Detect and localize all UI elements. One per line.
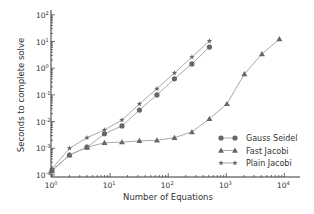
- star-icon: [232, 160, 237, 165]
- y-tick-label: 10-3: [36, 143, 51, 153]
- circle-marker: [207, 44, 212, 49]
- circle-icon: [232, 135, 237, 140]
- y-tick-label: 10-1: [36, 90, 51, 100]
- y-tick-label: 10-4: [36, 170, 51, 180]
- triangle-marker: [276, 36, 282, 41]
- y-tick-label: 102: [36, 10, 49, 20]
- x-tick-label: 102: [161, 180, 174, 190]
- y-axis-label: Seconds to complete solve: [16, 38, 26, 152]
- triangle-marker: [224, 101, 230, 106]
- x-tick-label: 101: [103, 180, 116, 190]
- circle-marker: [137, 107, 142, 112]
- circle-marker: [102, 131, 107, 136]
- y-tick-label: 10-2: [36, 117, 51, 127]
- circle-icon: [218, 135, 223, 140]
- legend-label: Fast Jacobi: [246, 147, 288, 156]
- star-icon: [218, 160, 223, 165]
- series-line: [52, 41, 209, 169]
- x-tick-label: 103: [219, 180, 232, 190]
- legend-label: Gauss Seidel: [246, 134, 298, 143]
- y-tick-label: 100: [36, 63, 49, 73]
- solver-timing-chart: 10010110210310410-410-310-210-1100101102…: [0, 0, 314, 214]
- legend-item: Gauss Seidel: [218, 134, 297, 143]
- x-axis-label: Number of Equations: [123, 192, 213, 202]
- legend-item: Plain Jacobi: [218, 159, 291, 168]
- legend-label: Plain Jacobi: [246, 159, 292, 168]
- circle-marker: [119, 123, 124, 128]
- legend: Gauss SeidelFast JacobiPlain Jacobi: [218, 134, 298, 168]
- y-tick-label: 101: [36, 37, 49, 47]
- legend-item: Fast Jacobi: [218, 147, 288, 156]
- x-tick-label: 100: [45, 180, 58, 190]
- series-plain-jacobi: [49, 38, 212, 171]
- circle-marker: [172, 76, 177, 81]
- circle-marker: [154, 92, 159, 97]
- chart-canvas: 10010110210310410-410-310-210-1100101102…: [0, 0, 314, 214]
- circle-marker: [189, 61, 194, 66]
- x-tick-label: 104: [277, 180, 290, 190]
